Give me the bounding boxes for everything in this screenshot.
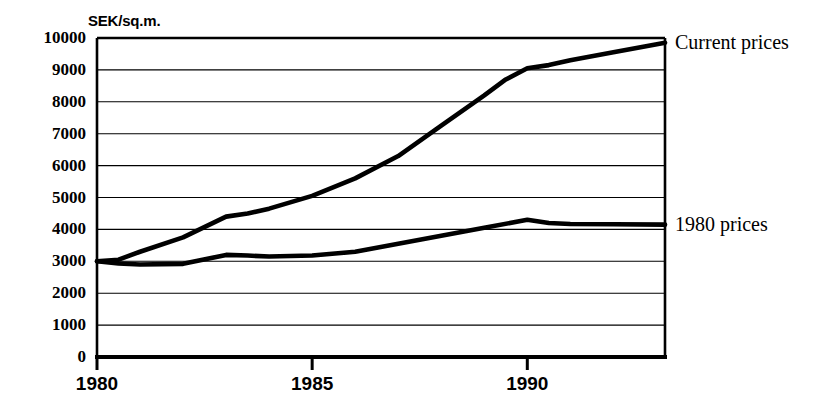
series-line-current-prices: [97, 43, 665, 262]
series-label-current-prices: Current prices: [675, 32, 789, 52]
data-series: [97, 43, 665, 265]
grid-lines: [97, 38, 665, 325]
plot-area: [0, 0, 819, 415]
series-label-1980-prices: 1980 prices: [675, 214, 768, 234]
series-line-1980-prices: [97, 220, 665, 265]
chart-figure: SEK/sq.m. 100009000800070006000500040003…: [0, 0, 819, 415]
